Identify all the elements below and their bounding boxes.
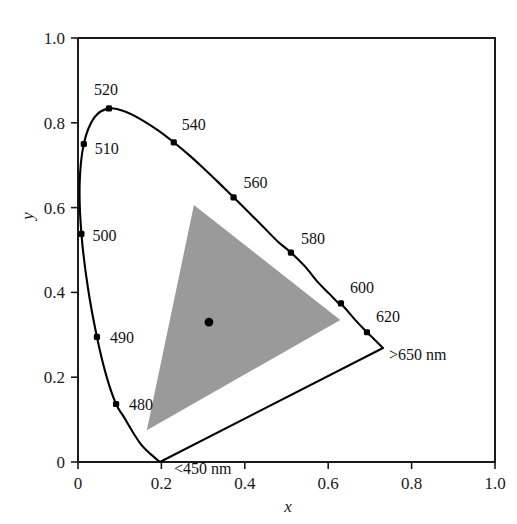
y-tick-label: 0.8: [44, 114, 65, 133]
x-tick-label: 0.6: [318, 474, 339, 493]
wavelength-label-510: 510: [95, 140, 119, 157]
wavelength-marker-540: [171, 139, 177, 145]
wavelength-label-560: 560: [244, 174, 268, 191]
x-tick-label: 0.2: [151, 474, 172, 493]
x-tick-label: 0: [74, 474, 83, 493]
x-tick-label: 1.0: [484, 474, 505, 493]
wavelength-label-580: 580: [301, 230, 325, 247]
wavelength-label-480: 480: [129, 396, 153, 413]
y-tick-label: 0.4: [44, 283, 66, 302]
wavelength-label-490: 490: [110, 329, 134, 346]
wavelength-label-520: 520: [94, 81, 118, 98]
y-tick-label: 0.6: [44, 199, 65, 218]
x-tick-label: 0.8: [401, 474, 422, 493]
wavelength-marker-520: [106, 105, 112, 111]
wavelength-marker-500: [78, 231, 84, 237]
y-tick-label: 0.2: [44, 368, 65, 387]
wavelength-marker-480: [113, 401, 119, 407]
wavelength-label-450: <450 nm: [174, 460, 232, 477]
y-axis-title: y: [18, 212, 37, 222]
wavelength-marker-560: [230, 194, 236, 200]
wavelength-marker-490: [94, 334, 100, 340]
chromaticity-diagram-figure: 00.20.40.60.81.0 00.20.40.60.81.0 <450 n…: [0, 0, 517, 524]
x-axis-title: x: [283, 497, 292, 516]
y-tick-label: 0: [57, 453, 66, 472]
wavelength-label-620: 620: [376, 308, 400, 325]
wavelength-label-540: 540: [182, 116, 206, 133]
wavelength-label-650: >650 nm: [389, 346, 447, 363]
white-point-marker: [205, 318, 214, 327]
chromaticity-plot: 00.20.40.60.81.0 00.20.40.60.81.0 <450 n…: [0, 0, 517, 524]
wavelength-marker-510: [81, 141, 87, 147]
wavelength-label-500: 500: [92, 227, 116, 244]
x-tick-label: 0.4: [234, 474, 256, 493]
wavelength-marker-600: [338, 300, 344, 306]
wavelength-marker-580: [288, 249, 294, 255]
y-tick-label: 1.0: [44, 29, 65, 48]
wavelength-label-600: 600: [350, 279, 374, 296]
wavelength-marker-620: [364, 329, 370, 335]
